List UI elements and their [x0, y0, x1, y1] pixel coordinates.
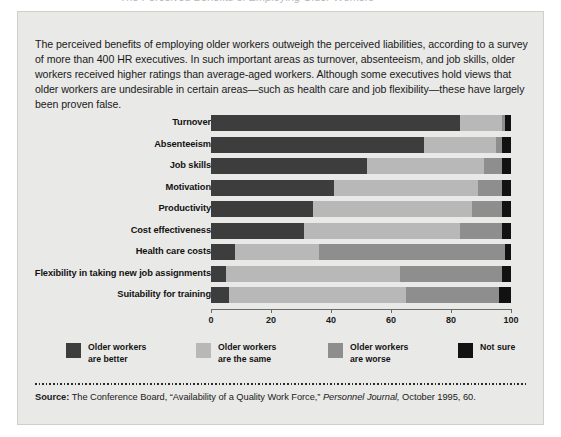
- cropped-title-text: The Perceived Benefits of Employing Olde…: [120, 0, 374, 3]
- legend-label-line1: Older workers: [218, 342, 276, 352]
- bar-segment: [211, 223, 304, 239]
- legend-label-line1: Older workers: [350, 342, 408, 352]
- bar-row: Suitability for training: [18, 287, 545, 303]
- legend-swatch-older-workers-are-better: [66, 343, 81, 358]
- bar-row-label: Productivity: [158, 203, 211, 213]
- bar-row-label: Motivation: [166, 182, 211, 192]
- bar-row-label: Absenteeism: [154, 139, 211, 149]
- legend-label: Older workersare better: [88, 342, 146, 365]
- bar-segment: [226, 266, 400, 282]
- bar-row: Flexibility in taking new job assignment…: [18, 266, 545, 282]
- legend-swatch-not-sure: [458, 343, 473, 358]
- bar-segment: [460, 115, 502, 131]
- x-axis-tick: [271, 309, 272, 313]
- cropped-title-sliver: The Perceived Benefits of Employing Olde…: [0, 0, 561, 9]
- bar-segment: [472, 201, 502, 217]
- bar-segment: [211, 158, 367, 174]
- bar-row-label: Job skills: [170, 160, 211, 170]
- bar-segment: [211, 244, 235, 260]
- legend-label-line2: are worse: [350, 354, 408, 366]
- chart-legend: Older workersare betterOlder workersare …: [66, 342, 536, 374]
- legend-label-line1: Not sure: [480, 342, 515, 352]
- bar-segment: [424, 137, 496, 153]
- source-publication: Personnel Journal,: [323, 392, 400, 402]
- bar-segment: [505, 244, 511, 260]
- bar-segment: [235, 244, 319, 260]
- bar-row-label: Cost effectiveness: [131, 225, 211, 235]
- bar-row: Motivation: [18, 180, 545, 196]
- bar-segment: [406, 287, 499, 303]
- legend-label: Older workersare the same: [218, 342, 276, 365]
- stacked-bar-chart: TurnoverAbsenteeismJob skillsMotivationP…: [18, 113, 545, 325]
- bar-segment: [400, 266, 502, 282]
- bar-segment: [502, 266, 511, 282]
- source-line: Source: The Conference Board, “Availabil…: [35, 392, 535, 402]
- bar-row-label: Turnover: [172, 117, 211, 127]
- x-axis-tick-label: 0: [208, 315, 213, 325]
- x-axis-tick: [391, 309, 392, 313]
- intro-paragraph: The perceived benefits of employing olde…: [35, 37, 528, 113]
- bar-segment: [460, 223, 502, 239]
- stacked-bar: [211, 223, 511, 239]
- bar-segment: [319, 244, 505, 260]
- stacked-bar: [211, 287, 511, 303]
- x-axis-tick: [511, 309, 512, 313]
- source-text-1: The Conference Board, “Availability of a…: [69, 392, 323, 402]
- source-label: Source:: [35, 392, 69, 402]
- bar-segment: [502, 223, 511, 239]
- bar-segment: [502, 137, 511, 153]
- bar-row: Productivity: [18, 201, 545, 217]
- bar-row: Job skills: [18, 158, 545, 174]
- x-axis-tick-label: 60: [386, 315, 396, 325]
- legend-label: Older workersare worse: [350, 342, 408, 365]
- bar-row: Health care costs: [18, 244, 545, 260]
- figure-panel: The perceived benefits of employing olde…: [17, 11, 544, 425]
- legend-label-line1: Older workers: [88, 342, 146, 352]
- bar-segment: [211, 266, 226, 282]
- legend-swatch-older-workers-are-worse: [328, 343, 343, 358]
- x-axis-tick-label: 80: [446, 315, 456, 325]
- x-axis-tick: [451, 309, 452, 313]
- bar-segment: [334, 180, 478, 196]
- bar-segment: [304, 223, 460, 239]
- legend-swatch-older-workers-are-the-same: [196, 343, 211, 358]
- bar-segment: [211, 115, 460, 131]
- x-axis-tick-label: 40: [326, 315, 336, 325]
- bar-segment: [505, 115, 511, 131]
- stacked-bar: [211, 201, 511, 217]
- bar-segment: [367, 158, 484, 174]
- legend-label: Not sure: [480, 342, 515, 354]
- figure-page: The Perceived Benefits of Employing Olde…: [0, 0, 561, 437]
- x-axis-tick-label: 100: [503, 315, 518, 325]
- source-text-2: October 1995, 60.: [400, 392, 476, 402]
- bar-segment: [484, 158, 502, 174]
- x-axis-tick: [331, 309, 332, 313]
- legend-label-line2: are the same: [218, 354, 276, 366]
- bar-segment: [211, 287, 229, 303]
- bar-segment: [502, 201, 511, 217]
- bar-row: Absenteeism: [18, 137, 545, 153]
- legend-label-line2: are better: [88, 354, 146, 366]
- stacked-bar: [211, 266, 511, 282]
- bar-segment: [211, 201, 313, 217]
- x-axis-line: [211, 309, 511, 310]
- stacked-bar: [211, 158, 511, 174]
- bar-segment: [229, 287, 406, 303]
- bar-segment: [313, 201, 472, 217]
- bar-segment: [211, 180, 334, 196]
- x-axis: 020406080100: [211, 309, 511, 331]
- bar-segment: [502, 158, 511, 174]
- bar-row-label: Health care costs: [136, 246, 211, 256]
- bar-segment: [478, 180, 502, 196]
- stacked-bar: [211, 115, 511, 131]
- stacked-bar: [211, 180, 511, 196]
- stacked-bar: [211, 244, 511, 260]
- x-axis-tick: [211, 309, 212, 313]
- bar-segment: [211, 137, 424, 153]
- x-axis-tick-label: 20: [266, 315, 276, 325]
- bar-segment: [502, 180, 511, 196]
- bar-row: Cost effectiveness: [18, 223, 545, 239]
- bar-row-label: Suitability for training: [117, 289, 211, 299]
- bar-row-label: Flexibility in taking new job assignment…: [35, 268, 211, 278]
- dotted-divider: [35, 383, 528, 385]
